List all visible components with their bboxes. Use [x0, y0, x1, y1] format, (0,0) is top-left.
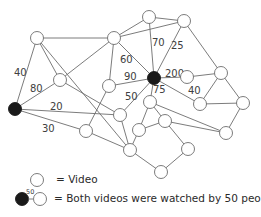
video-node — [54, 74, 67, 87]
highlighted-video-node — [9, 103, 22, 116]
video-node — [80, 125, 93, 138]
edge-weight-label: 60 — [120, 54, 133, 65]
edge-weight-label: 75 — [153, 84, 166, 95]
edge-weight-label: 80 — [30, 83, 43, 94]
video-node — [144, 96, 157, 109]
edge-weight-label: 70 — [152, 37, 165, 48]
edge-weight-label: 30 — [42, 123, 55, 134]
video-node — [215, 67, 228, 80]
video-node — [194, 98, 207, 111]
legend-open-node-icon — [34, 193, 47, 206]
video-node — [103, 80, 116, 93]
video-graph: 4080203060702590502007540 50 — [0, 0, 261, 217]
legend-graphics: 50 — [16, 174, 47, 206]
graph-edge — [37, 38, 60, 80]
edge-weight-label: 40 — [14, 67, 27, 78]
video-node — [108, 32, 121, 45]
legend-video-node-icon — [31, 174, 44, 187]
video-node — [155, 166, 168, 179]
edge-weight-label: 50 — [125, 91, 138, 102]
video-node — [237, 97, 250, 110]
graph-edge — [60, 38, 114, 80]
video-node — [133, 124, 146, 137]
video-node — [114, 109, 127, 122]
graph-edge — [109, 38, 114, 86]
video-node — [159, 115, 172, 128]
edge-weight-label: 20 — [50, 101, 63, 112]
video-node — [178, 15, 191, 28]
graph-edge — [165, 121, 226, 133]
edge-weight-label: 40 — [188, 85, 201, 96]
edge-weight-label: 90 — [124, 71, 137, 82]
graph-edge — [86, 86, 109, 131]
video-node — [181, 71, 194, 84]
graph-edge — [184, 21, 221, 73]
video-node — [182, 143, 195, 156]
graph-edge — [86, 131, 130, 150]
legend-edge-weight: 50 — [26, 188, 34, 196]
video-node — [220, 127, 233, 140]
video-node — [31, 32, 44, 45]
edge-weight-label: 25 — [171, 40, 184, 51]
highlighted-video-node — [148, 72, 161, 85]
video-node — [124, 144, 137, 157]
video-node — [143, 11, 156, 24]
